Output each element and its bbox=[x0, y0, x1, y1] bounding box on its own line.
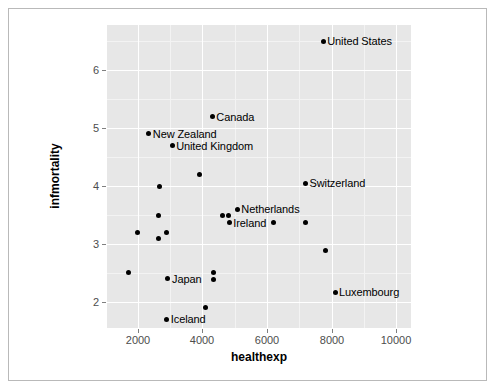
scatter-point[interactable] bbox=[135, 230, 140, 235]
scatter-point-label: Canada bbox=[216, 112, 254, 123]
y-tick-label: 2 bbox=[93, 296, 99, 308]
scatter-point[interactable] bbox=[227, 220, 232, 225]
x-tick-mark bbox=[138, 329, 139, 333]
x-tick-label: 6000 bbox=[255, 334, 279, 346]
y-tick-mark bbox=[102, 70, 106, 71]
x-tick-mark bbox=[267, 329, 268, 333]
x-tick-label: 10000 bbox=[381, 334, 412, 346]
scatter-point-label: United States bbox=[327, 36, 392, 47]
scatter-point[interactable] bbox=[156, 236, 161, 241]
y-tick-mark bbox=[102, 128, 106, 129]
scatter-point[interactable] bbox=[303, 181, 308, 186]
scatter-point[interactable] bbox=[146, 131, 151, 136]
y-axis-title: infmortality bbox=[48, 143, 62, 208]
scatter-point[interactable] bbox=[226, 213, 231, 218]
scatter-point-label: Luxembourg bbox=[339, 287, 399, 298]
scatter-point[interactable] bbox=[211, 277, 216, 282]
scatter-point[interactable] bbox=[303, 220, 308, 225]
scatter-point[interactable] bbox=[323, 248, 328, 253]
scatter-point-label: United Kingdom bbox=[176, 141, 253, 152]
scatter-point[interactable] bbox=[157, 184, 162, 189]
scatter-point[interactable] bbox=[170, 143, 175, 148]
gridline-major-horizontal bbox=[107, 302, 411, 303]
scatter-point-label: Netherlands bbox=[241, 204, 299, 215]
y-tick-mark bbox=[102, 302, 106, 303]
gridline-major-horizontal bbox=[107, 186, 411, 187]
x-axis-title: healthexp bbox=[107, 350, 411, 364]
scatter-point[interactable] bbox=[271, 220, 276, 225]
y-tick-label: 6 bbox=[93, 64, 99, 76]
y-tick-mark bbox=[102, 244, 106, 245]
scatter-point-label: Switzerland bbox=[309, 178, 365, 189]
plot-panel: United StatesCanadaNew ZealandUnited Kin… bbox=[107, 25, 411, 328]
y-tick-label: 5 bbox=[93, 122, 99, 134]
x-tick-mark bbox=[332, 329, 333, 333]
figure-canvas: United StatesCanadaNew ZealandUnited Kin… bbox=[0, 0, 496, 390]
scatter-point[interactable] bbox=[321, 39, 326, 44]
scatter-point[interactable] bbox=[156, 213, 161, 218]
gridline-major-horizontal bbox=[107, 244, 411, 245]
scatter-point[interactable] bbox=[197, 172, 202, 177]
scatter-point[interactable] bbox=[126, 270, 131, 275]
scatter-point[interactable] bbox=[210, 114, 215, 119]
scatter-point[interactable] bbox=[203, 305, 208, 310]
gridline-minor-horizontal bbox=[107, 99, 411, 100]
scatter-point[interactable] bbox=[220, 213, 225, 218]
scatter-point[interactable] bbox=[164, 317, 169, 322]
x-tick-mark bbox=[202, 329, 203, 333]
y-tick-label: 3 bbox=[93, 238, 99, 250]
scatter-point-label: Iceland bbox=[171, 314, 206, 325]
scatter-point[interactable] bbox=[235, 207, 240, 212]
scatter-point[interactable] bbox=[211, 270, 216, 275]
gridline-major-horizontal bbox=[107, 70, 411, 71]
x-tick-mark bbox=[396, 329, 397, 333]
gridline-minor-horizontal bbox=[107, 273, 411, 274]
scatter-point-label: Japan bbox=[172, 274, 201, 285]
y-tick-label: 4 bbox=[93, 180, 99, 192]
scatter-point-label: New Zealand bbox=[153, 129, 217, 140]
x-tick-label: 2000 bbox=[126, 334, 150, 346]
x-tick-label: 8000 bbox=[320, 334, 344, 346]
scatter-point-label: Ireland bbox=[233, 218, 266, 229]
scatter-point[interactable] bbox=[164, 230, 169, 235]
x-tick-label: 4000 bbox=[190, 334, 214, 346]
y-tick-mark bbox=[102, 186, 106, 187]
scatter-point[interactable] bbox=[333, 290, 338, 295]
gridline-minor-horizontal bbox=[107, 157, 411, 158]
